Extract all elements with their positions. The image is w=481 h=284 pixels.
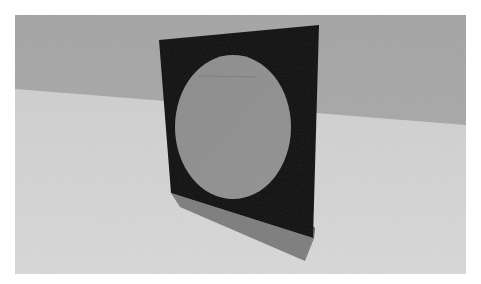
noise-overlay [15, 15, 466, 274]
rendered-scene [0, 0, 481, 284]
